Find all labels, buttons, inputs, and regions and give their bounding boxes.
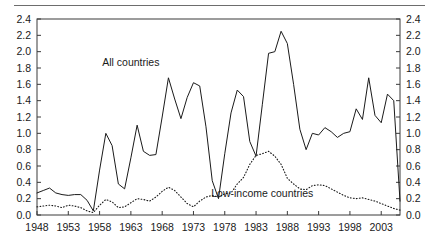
x-tick-label: 1973 [182, 221, 206, 233]
y-tick-label-right: 0.8 [406, 143, 421, 155]
y-tick-label-right: 2.4 [406, 13, 421, 25]
x-tick-label: 1993 [307, 221, 331, 233]
series-layer [37, 31, 400, 212]
y-tick-label-left: 0.8 [16, 143, 31, 155]
x-tick-label: 1958 [88, 221, 112, 233]
plot-frame [37, 19, 400, 215]
y-tick-label-right: 1.4 [406, 94, 421, 106]
series-line-low-income-countries [37, 151, 400, 212]
y-tick-label-left: 1.0 [16, 127, 31, 139]
x-tick-label: 1998 [338, 221, 362, 233]
x-tick-label: 1963 [119, 221, 143, 233]
y-tick-label-right: 0.4 [406, 176, 421, 188]
plot-border [37, 19, 400, 215]
x-tick-label: 1978 [213, 221, 237, 233]
y-tick-label-right: 0.6 [406, 160, 421, 172]
y-tick-label-left: 0.6 [16, 160, 31, 172]
y-tick-label-right: 2.2 [406, 29, 421, 41]
y-tick-label-right: 0.0 [406, 209, 421, 221]
y-tick-label-right: 1.0 [406, 127, 421, 139]
x-tick-label: 1948 [25, 221, 49, 233]
y-tick-label-left: 2.0 [16, 45, 31, 57]
y-tick-label-right: 2.0 [406, 45, 421, 57]
series-annotation: All countries [102, 56, 159, 68]
y-tick-label-left: 2.2 [16, 29, 31, 41]
y-tick-label-right: 1.2 [406, 111, 421, 123]
y-tick-label-left: 1.4 [16, 94, 31, 106]
x-tick-label: 1953 [57, 221, 81, 233]
y-tick-label-left: 1.8 [16, 62, 31, 74]
x-tick-label: 1968 [150, 221, 174, 233]
line-chart: 0.00.20.40.60.81.01.21.41.61.82.02.22.4 … [0, 0, 439, 249]
series-line-all-countries [37, 31, 400, 211]
y-tick-label-right: 0.2 [406, 192, 421, 204]
x-axis: 1948195319581963196819731978198319881993… [25, 211, 393, 233]
y-tick-label-left: 0.0 [16, 209, 31, 221]
y-tick-label-left: 0.2 [16, 192, 31, 204]
x-tick-label: 1988 [276, 221, 300, 233]
annotation-layer: All countriesLow-income countries [102, 56, 313, 199]
series-annotation: Low-income countries [211, 187, 313, 199]
y-tick-label-left: 1.2 [16, 111, 31, 123]
y-tick-label-right: 1.8 [406, 62, 421, 74]
y-tick-label-right: 1.6 [406, 78, 421, 90]
x-tick-label: 2003 [370, 221, 394, 233]
y-tick-label-left: 1.6 [16, 78, 31, 90]
x-tick-label: 1983 [244, 221, 268, 233]
y-tick-label-left: 0.4 [16, 176, 31, 188]
chart-figure: 0.00.20.40.60.81.01.21.41.61.82.02.22.4 … [0, 0, 439, 249]
y-tick-label-left: 2.4 [16, 13, 31, 25]
